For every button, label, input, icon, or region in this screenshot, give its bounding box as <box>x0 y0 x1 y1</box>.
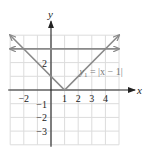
x-tick-label: 1 <box>62 93 67 104</box>
x-axis-label: x <box>136 84 142 96</box>
x-tick-label: 4 <box>103 93 108 104</box>
x-tick-label: 2 <box>76 93 81 104</box>
y-tick-label: −1 <box>36 99 47 110</box>
x-tick-label: 3 <box>89 93 94 104</box>
y-tick-label: −3 <box>36 126 47 137</box>
y-axis-label: y <box>47 8 53 20</box>
x-tick-label: −2 <box>18 93 29 104</box>
absolute-value-graph: −212342−1−2−3 xyy1 = |x − 1| <box>0 0 148 152</box>
equation-label: y1 = |x − 1| <box>78 66 122 79</box>
y-tick-label: −2 <box>36 112 47 123</box>
axis-labels: xyy1 = |x − 1| <box>47 8 142 96</box>
